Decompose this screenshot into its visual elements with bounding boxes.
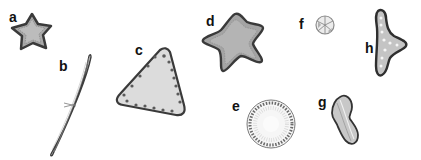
panel-d: d [195, 0, 285, 80]
constricted-diatom-image [310, 85, 370, 160]
panel-g: g [310, 85, 370, 160]
panel-e: e [220, 85, 310, 160]
lanceolate-diatom-image [40, 50, 100, 160]
circular-disc-diatom-image [220, 85, 310, 160]
panel-b: b [40, 50, 100, 160]
star-diatom-large-image [195, 0, 285, 80]
